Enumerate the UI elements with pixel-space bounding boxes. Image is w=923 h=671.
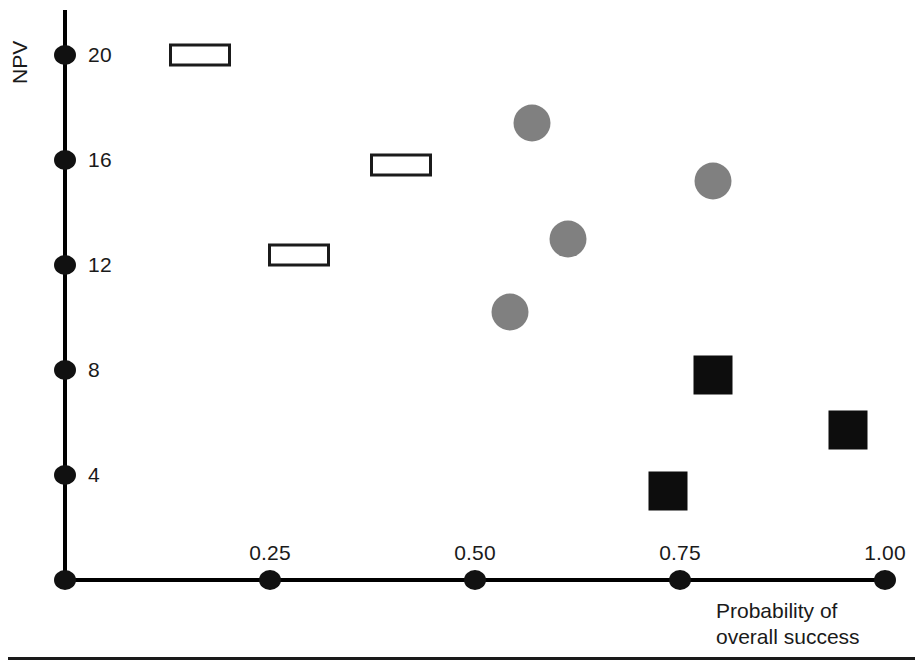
y-axis-title: NPV [8,41,32,84]
y-tick-dot [54,45,76,65]
x-tick-dot [464,570,486,590]
x-tick-dot [259,570,281,590]
bottom-divider [8,657,915,660]
y-tick-dot [54,360,76,380]
data-point-gray-circle [549,220,586,257]
x-tick-dot [669,570,691,590]
y-tick-label: 16 [88,148,112,172]
y-tick-dot [54,255,76,275]
data-point-gray-circle [694,163,731,200]
x-tick-label: 0.75 [659,541,701,565]
data-point-open-rectangle [268,243,330,266]
data-point-black-square [829,411,868,450]
y-tick-dot [54,150,76,170]
x-tick-label: 0.25 [249,541,291,565]
data-point-black-square [693,356,732,395]
x-axis-title: Probability of overall success [716,598,860,649]
data-point-gray-circle [514,105,551,142]
plot-area: 201612840.250.500.751.00 [0,0,923,671]
data-point-open-rectangle [169,44,231,67]
x-tick-label: 0.50 [454,541,496,565]
x-tick-label: 1.00 [864,541,906,565]
chart-figure: 201612840.250.500.751.00 NPV Probability… [0,0,923,671]
origin-tick-dot [54,570,76,590]
y-tick-label: 4 [88,463,100,487]
y-tick-label: 8 [88,358,100,382]
x-tick-dot [874,570,896,590]
data-point-open-rectangle [370,154,432,177]
y-tick-label: 20 [88,43,112,67]
data-point-black-square [648,471,687,510]
y-tick-label: 12 [88,253,112,277]
data-point-gray-circle [492,294,529,331]
y-tick-dot [54,465,76,485]
